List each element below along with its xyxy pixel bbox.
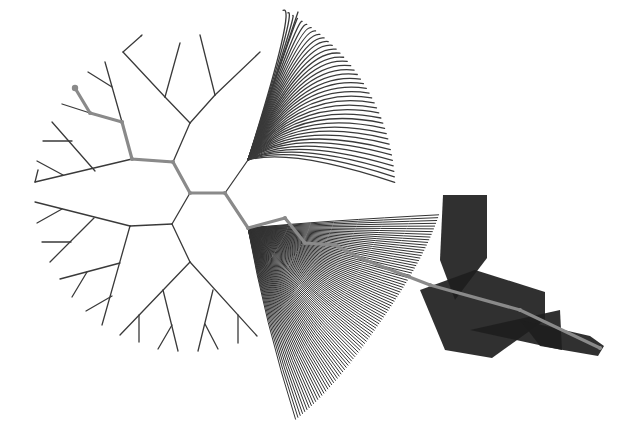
path-node: [88, 111, 92, 115]
tree-edge: [37, 209, 62, 223]
tree-edge: [172, 193, 190, 224]
tree-edge: [123, 52, 165, 97]
path-node: [428, 283, 432, 287]
tree-edge: [141, 35, 142, 36]
tree-edge: [205, 324, 218, 349]
tree-edge: [130, 224, 172, 226]
path-endpoint-node: [72, 85, 78, 91]
path-node: [120, 120, 124, 124]
tree-edge: [37, 161, 63, 175]
tree-edge: [190, 262, 257, 336]
tree-edge: [35, 159, 132, 182]
tree-edge: [190, 95, 215, 123]
path-node: [598, 346, 602, 350]
tree-edge: [35, 202, 130, 226]
tree-edge: [60, 263, 120, 279]
tree-edge: [163, 290, 178, 351]
tree-edge: [225, 160, 248, 193]
tree-edge: [50, 218, 94, 262]
tree-edge: [105, 62, 122, 122]
highlighted-path: [73, 86, 602, 350]
path-node: [333, 243, 337, 247]
radial-tree-diagram: [0, 0, 634, 448]
tree-edge: [173, 123, 190, 162]
tree-edge: [200, 35, 215, 95]
tree-edge: [120, 262, 190, 335]
path-node: [358, 256, 362, 260]
path-node: [171, 160, 175, 164]
tree-edge: [35, 170, 38, 182]
path-node: [518, 308, 522, 312]
tree-edge: [198, 290, 213, 351]
path-node: [246, 226, 250, 230]
lower-right-dense-subtree: [248, 215, 439, 420]
tree-edge: [102, 226, 130, 325]
upper-right-subtree: [225, 10, 395, 193]
tree-edge: [123, 36, 141, 52]
tree-edge: [165, 97, 190, 123]
path-node: [303, 241, 307, 245]
path-node: [130, 157, 134, 161]
path-node: [283, 216, 287, 220]
tree-edge: [215, 52, 260, 95]
dense-leaf-blocks: [420, 195, 604, 358]
path-node: [188, 191, 192, 195]
tree-edge: [165, 43, 180, 97]
path-node: [223, 191, 227, 195]
tree-edge: [172, 224, 190, 262]
tree-edge: [158, 325, 172, 349]
tree-edge: [52, 122, 95, 171]
